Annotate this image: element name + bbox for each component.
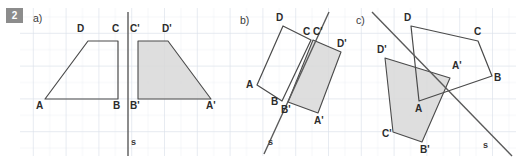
vertex-label-c-Dp: D': [377, 44, 387, 55]
vertex-label-c-Cp: C': [382, 128, 392, 139]
vertex-label-c-A: A: [415, 103, 422, 114]
vertex-label-b-Bp: B': [281, 104, 291, 115]
part-label-c: c): [356, 14, 365, 26]
vertex-label-a-A: A: [36, 100, 43, 111]
vertex-label-a-Cp: C': [130, 23, 140, 34]
part-label-b: b): [240, 14, 249, 26]
vertex-label-c-D: D: [404, 12, 411, 23]
vertex-label-a-D: D: [77, 23, 84, 34]
vertex-label-b-Ap: A': [314, 115, 324, 126]
vertex-label-a-C: C: [112, 23, 119, 34]
axis-label-b: s: [268, 137, 273, 147]
vertex-label-b-D: D: [276, 12, 283, 23]
vertex-label-b-C: C: [303, 26, 310, 37]
vertex-label-a-Bp: B': [130, 100, 140, 111]
vertex-label-a-B: B: [113, 100, 120, 111]
exercise-number-badge: 2: [6, 8, 23, 23]
axis-label-c: s: [483, 140, 488, 150]
vertex-label-c-B: B: [494, 72, 501, 83]
vertex-label-b-Cp: C': [313, 26, 323, 37]
vertex-label-b-B: B: [271, 96, 278, 107]
part-label-a: a): [33, 12, 42, 24]
vertex-label-c-Bp: B': [420, 144, 430, 155]
vertex-label-c-C: C: [474, 26, 481, 37]
vertex-label-b-Dp: D': [337, 38, 347, 49]
axis-label-a: s: [131, 137, 136, 147]
figure-canvas: 2 a)sABCDA'B'C'D'b)sABCDA'B'C'D'c)sABCDA…: [0, 0, 516, 162]
vertex-label-c-Ap: A': [452, 60, 462, 71]
vertex-label-a-Dp: D': [162, 23, 172, 34]
vertex-label-b-A: A: [246, 79, 253, 90]
vertex-label-a-Ap: A': [206, 100, 216, 111]
